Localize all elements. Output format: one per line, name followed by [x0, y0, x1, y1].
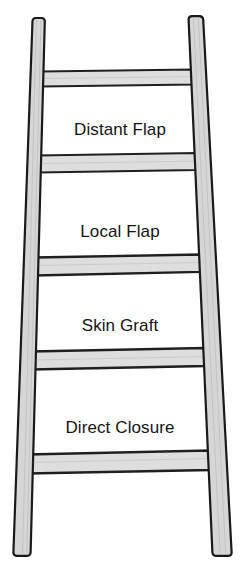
- ladder-right-rail: [189, 16, 232, 556]
- rung-label-skin-graft: Skin Graft: [0, 317, 240, 334]
- rung-label-distant-flap: Distant Flap: [0, 121, 240, 138]
- ladder-illustration: [0, 0, 240, 569]
- rung-label-local-flap: Local Flap: [0, 223, 240, 240]
- rung-label-direct-closure: Direct Closure: [0, 419, 240, 436]
- reconstructive-ladder-diagram: Distant Flap Local Flap Skin Graft Direc…: [0, 0, 240, 569]
